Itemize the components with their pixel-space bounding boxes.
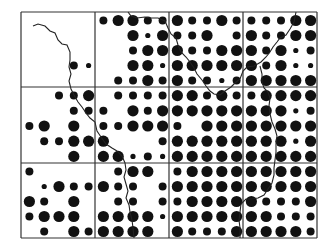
- data-dot: [142, 120, 153, 131]
- data-dot: [261, 136, 272, 147]
- data-dot: [275, 226, 286, 237]
- data-dot: [25, 213, 33, 221]
- data-dot: [277, 17, 285, 25]
- data-dot: [98, 181, 109, 192]
- data-dot: [216, 15, 227, 26]
- dot-grid-map: [0, 0, 331, 252]
- data-dot: [246, 30, 257, 41]
- data-dot: [144, 107, 152, 115]
- data-dot: [277, 198, 285, 206]
- data-dot: [277, 213, 285, 221]
- data-dot: [127, 60, 138, 71]
- data-dot: [231, 166, 242, 177]
- data-dot: [246, 151, 257, 162]
- data-dot: [231, 120, 242, 131]
- data-dot: [187, 196, 198, 207]
- data-dot: [203, 92, 211, 100]
- data-dot: [231, 60, 242, 71]
- data-dot: [305, 196, 316, 207]
- data-dot: [160, 63, 165, 68]
- data-dot: [292, 213, 300, 221]
- data-dot: [187, 166, 198, 177]
- data-dot: [293, 48, 298, 53]
- data-dot: [39, 211, 50, 222]
- data-dot: [172, 45, 183, 56]
- data-dot: [145, 33, 150, 38]
- data-dot: [172, 105, 183, 116]
- data-dot: [159, 137, 167, 145]
- data-dot: [42, 184, 47, 189]
- data-dot: [290, 151, 301, 162]
- data-dot: [305, 15, 316, 26]
- data-dot: [83, 90, 94, 101]
- data-dot: [233, 77, 241, 85]
- data-dot: [201, 105, 212, 116]
- data-dot: [188, 17, 196, 25]
- data-dot: [127, 30, 138, 41]
- data-dot: [247, 92, 255, 100]
- data-dot: [127, 105, 138, 116]
- data-dot: [70, 107, 78, 115]
- data-dot: [172, 181, 183, 192]
- data-dot: [129, 77, 137, 85]
- data-dot: [233, 17, 241, 25]
- data-dot: [114, 168, 122, 176]
- data-dot: [55, 92, 63, 100]
- data-dot: [99, 122, 107, 130]
- data-dot: [201, 211, 212, 222]
- data-dot: [70, 62, 78, 70]
- data-dot: [216, 136, 227, 147]
- data-dot: [201, 151, 212, 162]
- data-dot: [85, 183, 93, 191]
- data-dot: [172, 60, 183, 71]
- data-dot: [187, 90, 198, 101]
- data-dot: [246, 211, 257, 222]
- data-dot: [68, 211, 79, 222]
- data-dot: [201, 30, 212, 41]
- data-dot: [275, 75, 286, 86]
- data-dot: [293, 108, 298, 113]
- data-dot: [216, 45, 227, 56]
- river-line: [239, 66, 277, 238]
- data-dot: [261, 120, 272, 131]
- data-dot: [144, 92, 152, 100]
- data-dot: [172, 226, 183, 237]
- data-dot: [127, 120, 138, 131]
- data-dot: [114, 183, 122, 191]
- data-dot: [113, 211, 124, 222]
- data-dot: [216, 151, 227, 162]
- data-dot: [129, 92, 137, 100]
- data-dot: [142, 211, 153, 222]
- data-dot: [290, 181, 301, 192]
- data-dot: [172, 90, 183, 101]
- data-dot: [246, 105, 257, 116]
- data-dot: [293, 63, 298, 68]
- data-dot: [201, 136, 212, 147]
- data-dot: [188, 77, 196, 85]
- data-dot: [216, 90, 227, 101]
- data-dot: [187, 151, 198, 162]
- data-dot: [83, 136, 94, 147]
- data-dot: [218, 228, 226, 236]
- data-dot: [275, 120, 286, 131]
- data-dot: [98, 226, 109, 237]
- data-dot: [305, 30, 316, 41]
- data-dot: [188, 228, 196, 236]
- data-dot: [142, 60, 153, 71]
- data-dot: [246, 75, 257, 86]
- data-dot: [201, 181, 212, 192]
- data-dot: [39, 120, 50, 131]
- data-dot: [292, 198, 300, 206]
- data-dot: [201, 196, 212, 207]
- data-dot: [261, 166, 272, 177]
- data-dot: [144, 152, 152, 160]
- data-dot: [275, 90, 286, 101]
- data-dot: [219, 78, 224, 83]
- data-dot: [290, 15, 301, 26]
- data-dot: [231, 105, 242, 116]
- data-dot: [216, 60, 227, 71]
- data-dot: [114, 92, 122, 100]
- data-dot: [203, 228, 211, 236]
- data-dot: [68, 136, 79, 147]
- data-dot: [99, 107, 107, 115]
